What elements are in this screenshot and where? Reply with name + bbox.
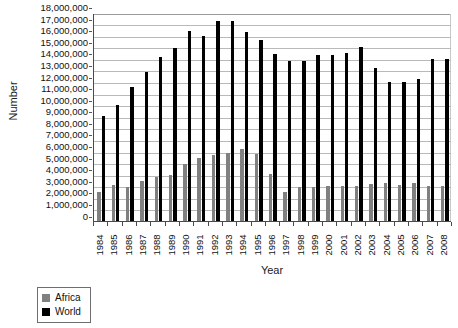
bar-africa-1989: [169, 175, 172, 221]
x-axis-tick-label: 2003: [367, 228, 377, 262]
bar-group: [237, 14, 251, 222]
y-axis-tick-label: 9,000,000: [46, 107, 88, 117]
x-axis-tick-label: 1986: [124, 228, 134, 262]
bar-world-1989: [173, 48, 176, 221]
bar-world-2008: [445, 59, 448, 221]
bar-world-2005: [402, 82, 405, 221]
bar-africa-2006: [412, 183, 415, 221]
bar-group: [294, 14, 308, 222]
y-axis-tick-label: 17,000,000: [40, 15, 88, 25]
bar-world-2004: [388, 82, 391, 221]
y-axis-tick-mark: [89, 112, 92, 113]
x-axis-tick-label: 1987: [138, 228, 148, 262]
y-axis-tick-label: 0: [83, 212, 88, 222]
legend-swatch-icon: [42, 308, 50, 316]
bar-africa-1996: [269, 174, 272, 221]
y-axis-tick-labels: 18,000,00017,000,00016,000,00015,000,000…: [18, 8, 92, 224]
legend-label: Africa: [55, 293, 81, 303]
y-axis-tick-label: 13,000,000: [40, 61, 88, 71]
x-axis-tick-label: 1988: [152, 228, 162, 262]
y-axis-tick-label: 18,000,000: [40, 3, 88, 13]
legend-swatch-icon: [42, 294, 50, 302]
bar-group: [423, 14, 437, 222]
x-axis-tick-label: 2006: [410, 228, 420, 262]
y-axis-tick-label: 3,000,000: [46, 177, 88, 187]
bar-group: [108, 14, 122, 222]
y-axis-tick-mark: [89, 159, 92, 160]
y-axis-tick-mark: [89, 43, 92, 44]
bar-world-2006: [417, 79, 420, 221]
x-axis-tick-label: 1997: [281, 228, 291, 262]
x-axis-tick-label: 2000: [324, 228, 334, 262]
legend-item-world[interactable]: World: [42, 305, 81, 319]
bar-world-1996: [273, 54, 276, 221]
y-axis-tick-label: 1,000,000: [46, 200, 88, 210]
y-axis-tick-label: 5,000,000: [46, 154, 88, 164]
bar-group: [252, 14, 266, 222]
bar-africa-1999: [312, 187, 315, 221]
x-axis-tick-label: 2001: [339, 228, 349, 262]
bar-group: [266, 14, 280, 222]
x-axis-tick-label: 1999: [310, 228, 320, 262]
bar-world-1998: [302, 61, 305, 221]
x-axis-tick-label: 2007: [425, 228, 435, 262]
legend-item-africa[interactable]: Africa: [42, 291, 81, 305]
x-axis-tick-label: 1985: [109, 228, 119, 262]
bar-chart: Number 18,000,00017,000,00016,000,00015,…: [0, 0, 458, 328]
y-axis-tick-mark: [89, 20, 92, 21]
x-axis-tick-label: 1992: [210, 228, 220, 262]
bar-africa-2000: [326, 186, 329, 221]
x-axis-tick-label: 2004: [382, 228, 392, 262]
bar-africa-1985: [112, 185, 115, 221]
y-axis-tick-mark: [89, 147, 92, 148]
y-axis-tick-label: 7,000,000: [46, 130, 88, 140]
bar-group: [123, 14, 137, 222]
bar-africa-2005: [398, 185, 401, 221]
x-axis-tick-label: 2002: [353, 228, 363, 262]
bar-group: [337, 14, 351, 222]
y-axis-tick-mark: [89, 124, 92, 125]
bar-africa-1986: [126, 187, 129, 221]
y-axis-tick-mark: [89, 182, 92, 183]
bar-world-1985: [116, 105, 119, 221]
x-axis-tick-labels: 1984198519861987198819891990199119921993…: [93, 226, 451, 262]
bar-world-2007: [431, 59, 434, 221]
bar-africa-1995: [255, 154, 258, 221]
y-axis-tick-label: 14,000,000: [40, 49, 88, 59]
x-axis-tick-label: 2008: [439, 228, 449, 262]
bar-world-1999: [316, 55, 319, 221]
y-axis-tick-label: 4,000,000: [46, 165, 88, 175]
bar-group: [94, 14, 108, 222]
bar-group: [194, 14, 208, 222]
y-axis-tick-label: 12,000,000: [40, 73, 88, 83]
bar-africa-1991: [197, 158, 200, 221]
bar-africa-2003: [369, 184, 372, 221]
bar-world-1994: [245, 32, 248, 221]
y-axis-tick-mark: [89, 101, 92, 102]
bar-group: [166, 14, 180, 222]
bar-group: [180, 14, 194, 222]
bar-world-1997: [288, 61, 291, 221]
bar-group: [209, 14, 223, 222]
x-axis-tick-label: 1995: [253, 228, 263, 262]
bars-layer: [94, 14, 451, 222]
bar-africa-2008: [441, 186, 444, 221]
bar-africa-1998: [298, 187, 301, 221]
bar-world-1995: [259, 40, 262, 221]
bar-africa-1984: [97, 192, 100, 221]
plot-area: [93, 14, 451, 223]
legend-label: World: [55, 307, 81, 317]
y-axis-tick-mark: [89, 217, 92, 218]
bar-africa-2001: [341, 186, 344, 221]
bar-africa-1992: [212, 155, 215, 221]
x-axis-tick-label: 1989: [167, 228, 177, 262]
x-axis-tick-mark: [451, 222, 452, 226]
x-axis-tick-label: 2005: [396, 228, 406, 262]
bar-world-1986: [130, 87, 133, 221]
bar-africa-1990: [183, 164, 186, 221]
y-axis-tick-mark: [89, 89, 92, 90]
bar-africa-1994: [240, 149, 243, 221]
bar-world-2000: [331, 55, 334, 221]
y-axis-tick-mark: [89, 54, 92, 55]
bar-group: [352, 14, 366, 222]
